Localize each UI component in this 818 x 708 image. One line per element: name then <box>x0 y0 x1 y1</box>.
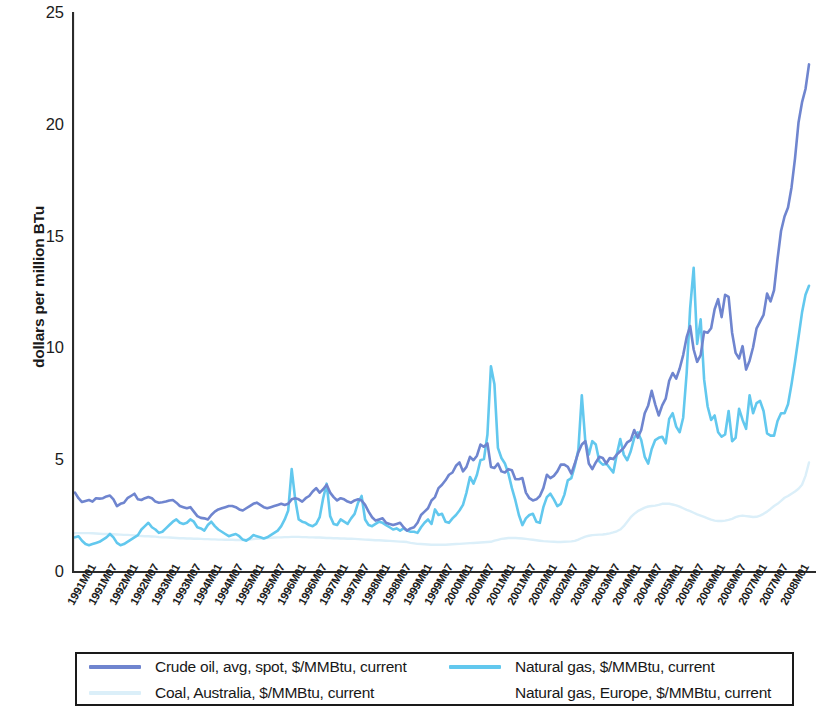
price-chart: dollars per million BTu 2520151050 1991M… <box>0 0 818 708</box>
y-axis-tick-label: 20 <box>22 116 64 133</box>
legend-color-swatch <box>449 691 501 695</box>
legend-label: Natural gas, $/MMBtu, current <box>515 658 715 676</box>
series-line <box>75 64 809 530</box>
y-axis-tick-label: 10 <box>22 339 64 356</box>
series-canvas <box>72 12 816 573</box>
chart-legend: Crude oil, avg, spot, $/MMBtu, currentNa… <box>75 652 794 706</box>
axis-lines <box>72 12 816 573</box>
legend-entry: Crude oil, avg, spot, $/MMBtu, current <box>77 654 437 680</box>
y-axis-tick-label: 5 <box>22 451 64 468</box>
x-axis-tick-labels: 1991M011991M071992M011992M071993M011993M… <box>0 576 818 652</box>
y-axis-tick-label: 15 <box>22 228 64 245</box>
legend-entry: Natural gas, $/MMBtu, current <box>437 654 796 680</box>
y-axis-tick-label: 25 <box>22 4 64 21</box>
series-line <box>75 268 809 545</box>
legend-label: Natural gas, Europe, $/MMBtu, current <box>515 684 771 702</box>
legend-color-swatch <box>89 691 141 695</box>
series-line <box>75 462 809 544</box>
y-axis-tick-labels: 2520151050 <box>0 0 64 585</box>
legend-label: Coal, Australia, $/MMBtu, current <box>155 684 374 702</box>
plot-area <box>72 12 816 573</box>
legend-label: Crude oil, avg, spot, $/MMBtu, current <box>155 658 407 676</box>
legend-entry: Natural gas, Europe, $/MMBtu, current <box>437 680 796 706</box>
legend-grid: Crude oil, avg, spot, $/MMBtu, currentNa… <box>77 654 792 704</box>
legend-color-swatch <box>449 665 501 669</box>
legend-entry: Coal, Australia, $/MMBtu, current <box>77 680 437 706</box>
legend-color-swatch <box>89 665 141 669</box>
